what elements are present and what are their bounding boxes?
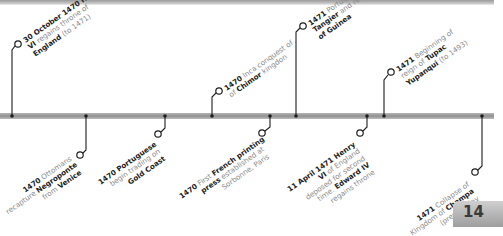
page-number-badge: 14 [453, 201, 503, 227]
event-marker-icon [15, 41, 21, 47]
